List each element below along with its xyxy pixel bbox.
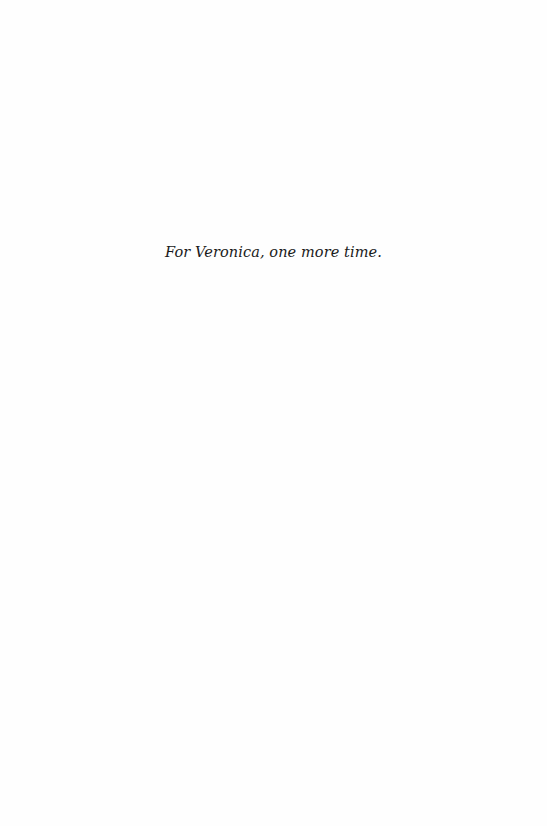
dedication-text: For Veronica, one more time. — [0, 242, 547, 262]
book-page: For Veronica, one more time. — [0, 0, 547, 826]
